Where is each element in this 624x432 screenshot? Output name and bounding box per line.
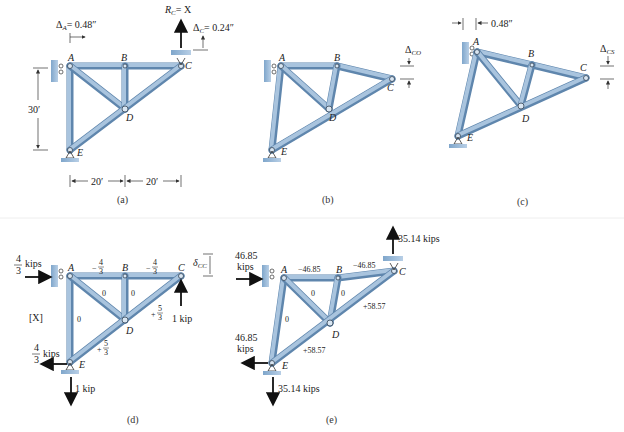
panel-d: A B C D E −43 −43 0 0 0 +53 +53 4 3 kips… [14, 253, 213, 426]
svg-text:+: + [97, 345, 102, 354]
svg-text:A: A [278, 52, 286, 63]
svg-text:B: B [334, 52, 340, 63]
svg-text:20′: 20′ [91, 176, 103, 187]
svg-text:46.85: 46.85 [235, 332, 258, 343]
svg-text:3: 3 [99, 267, 103, 276]
caption-d: (d) [127, 414, 139, 426]
svg-text:kips: kips [237, 343, 254, 354]
svg-text:0: 0 [102, 289, 106, 298]
svg-text:0: 0 [311, 289, 315, 298]
svg-text:0: 0 [77, 315, 81, 324]
roller-support-c [171, 50, 191, 55]
svg-text:E: E [280, 146, 287, 157]
svg-text:RC= X: RC= X [164, 4, 192, 17]
redundant-label: [X] [29, 312, 43, 323]
caption-c: (c) [517, 196, 528, 208]
svg-text:kips: kips [25, 258, 42, 269]
svg-text:3: 3 [104, 348, 108, 357]
delta-cc-label: δCC [193, 257, 207, 270]
svg-text:C: C [178, 262, 185, 273]
svg-text:kips: kips [237, 261, 254, 272]
svg-text:D: D [125, 325, 134, 336]
svg-text:+58.57: +58.57 [363, 302, 386, 311]
svg-text:C: C [399, 266, 406, 277]
svg-text:4: 4 [153, 258, 157, 267]
svg-text:5: 5 [158, 304, 162, 313]
svg-text:A: A [280, 264, 288, 275]
svg-text:−: − [146, 264, 151, 273]
svg-text:3: 3 [153, 267, 157, 276]
svg-text:1 kip: 1 kip [75, 383, 95, 394]
svg-text:E: E [281, 360, 288, 371]
svg-text:+: + [151, 310, 156, 319]
svg-text:1 kip: 1 kip [172, 313, 192, 324]
svg-text:−46.85: −46.85 [353, 261, 376, 270]
svg-text:−46.85: −46.85 [298, 265, 321, 274]
svg-text:−: − [92, 264, 97, 273]
svg-text:46.85: 46.85 [235, 250, 258, 261]
svg-text:D: D [331, 329, 340, 340]
svg-text:35.14 kips: 35.14 kips [398, 233, 440, 244]
svg-text:0: 0 [285, 315, 289, 324]
svg-text:3: 3 [16, 265, 21, 276]
svg-text:A: A [67, 52, 75, 63]
svg-text:4: 4 [34, 342, 39, 353]
svg-text:C: C [387, 82, 394, 93]
delta-c-label: ΔC= 0.24″ [193, 22, 234, 35]
svg-text:E: E [78, 359, 85, 370]
delta-cs-label: ΔCS [600, 43, 615, 56]
svg-text:E: E [76, 147, 83, 158]
svg-text:A: A [472, 36, 480, 47]
svg-text:35.14 kips: 35.14 kips [278, 383, 320, 394]
svg-text:B: B [121, 52, 127, 63]
svg-text:B: B [122, 262, 128, 273]
svg-text:4: 4 [16, 253, 21, 264]
svg-text:kips: kips [43, 348, 60, 359]
wall-support-a [51, 60, 58, 82]
shift-label: 0.48″ [491, 18, 513, 29]
svg-text:D: D [521, 113, 530, 124]
svg-text:A: A [67, 262, 75, 273]
panel-a: RC= X ΔA= 0.48″ ΔC= 0.24″ A B C D E 30′ … [28, 4, 234, 206]
panel-c: A B C D E 0.48″ ΔCS (c) [449, 18, 615, 208]
panel-b: A B C D E ΔCO (b) [263, 44, 421, 206]
svg-text:0: 0 [131, 289, 135, 298]
panel-e: A B C D E −46.85 −46.85 0 0 0 +58.57 +58… [235, 229, 440, 426]
height-dim: 30′ [28, 104, 40, 115]
svg-text:E: E [466, 132, 473, 143]
svg-text:20′: 20′ [146, 176, 158, 187]
svg-text:B: B [336, 264, 342, 275]
svg-text:D: D [125, 112, 134, 123]
delta-a-label: ΔA= 0.48″ [56, 19, 97, 32]
svg-text:3: 3 [34, 354, 39, 365]
svg-text:+58.57: +58.57 [303, 346, 326, 355]
svg-text:4: 4 [99, 258, 103, 267]
svg-text:0: 0 [341, 289, 345, 298]
svg-text:B: B [528, 48, 534, 59]
svg-text:C: C [185, 60, 192, 71]
svg-text:3: 3 [158, 313, 162, 322]
truss-members-final [271, 270, 394, 363]
delta-co-label: ΔCO [405, 44, 421, 57]
caption-a: (a) [117, 194, 128, 206]
svg-text:D: D [328, 112, 337, 123]
svg-text:5: 5 [104, 339, 108, 348]
truss-figure: RC= X ΔA= 0.48″ ΔC= 0.24″ A B C D E 30′ … [0, 0, 624, 432]
pin-support-e [61, 158, 79, 162]
caption-e: (e) [326, 414, 337, 426]
svg-text:C: C [580, 62, 587, 73]
caption-b: (b) [322, 194, 334, 206]
